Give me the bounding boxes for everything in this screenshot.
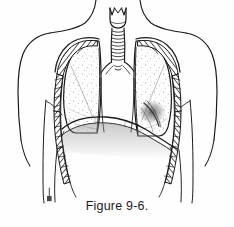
trachea [111, 28, 125, 62]
figure-page: Figure 9-6. [0, 0, 234, 227]
larynx [110, 8, 126, 28]
carina [101, 62, 135, 74]
figure-caption: Figure 9-6. [0, 198, 234, 214]
thorax-illustration [0, 0, 234, 227]
torso-outline [18, 0, 217, 203]
